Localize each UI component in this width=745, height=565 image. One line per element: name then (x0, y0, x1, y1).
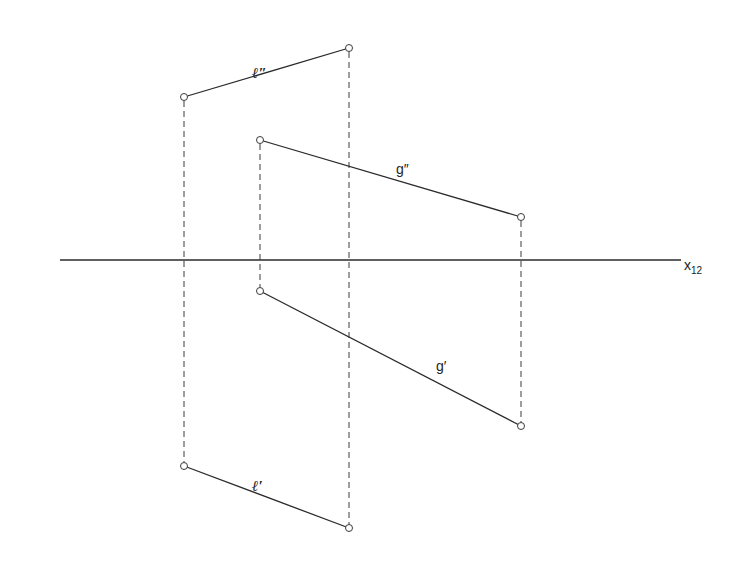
axis-label: x12 (684, 257, 703, 276)
line-l-prime (184, 466, 349, 528)
point-l1-b (346, 525, 353, 532)
point-g2-b (518, 214, 525, 221)
point-l2-a (181, 94, 188, 101)
point-l1-a (181, 463, 188, 470)
label-g-double-prime: g″ (396, 161, 409, 177)
label-l-prime: ℓ′ (252, 478, 263, 494)
point-g1-a (257, 288, 264, 295)
label-g-prime: g′ (436, 358, 447, 374)
point-g1-b (518, 423, 525, 430)
line-g-prime (260, 291, 521, 426)
label-l-double-prime: ℓ″ (252, 65, 267, 81)
point-g2-a (257, 137, 264, 144)
line-g-double-prime (260, 140, 521, 217)
projection-diagram: x12 ℓ″ g″ g′ ℓ′ (0, 0, 745, 565)
point-l2-b (346, 45, 353, 52)
